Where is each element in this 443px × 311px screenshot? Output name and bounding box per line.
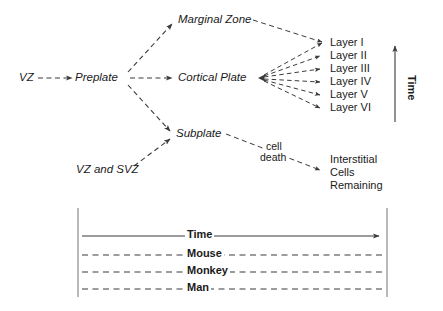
diagram-canvas: VZ Preplate Marginal Zone Cortical Plate… <box>0 0 443 311</box>
timeline-label-mouse: Mouse <box>185 248 224 260</box>
node-cortical-plate: Cortical Plate <box>178 71 246 83</box>
cortical-plate-inbound-arrowhead <box>258 74 266 82</box>
layer-label-4: Layer IV <box>330 76 371 88</box>
edge-vzsvz-to-subplate <box>134 139 170 166</box>
layer-label-1: Layer I <box>330 37 364 49</box>
edge-cortical-plate-to-layer-v <box>264 80 320 95</box>
layer-label-6: Layer VI <box>330 102 371 114</box>
edge-marginal-zone-to-layer-i <box>253 20 322 42</box>
timeline-time-label: Time <box>185 229 214 241</box>
layer-label-2: Layer II <box>330 50 367 62</box>
node-subplate: Subplate <box>176 127 221 139</box>
timeline-label-man: Man <box>185 282 211 294</box>
time-axis-vertical-label: Time <box>406 75 418 100</box>
timeline-label-monkey: Monkey <box>185 265 230 277</box>
node-vz-and-svz: VZ and SVZ <box>76 163 139 175</box>
node-marginal-zone: Marginal Zone <box>178 13 252 25</box>
layer-label-5: Layer V <box>330 89 368 101</box>
edge-preplate-to-subplate <box>128 85 170 131</box>
node-interstitial-line3: Remaining <box>330 179 383 193</box>
edge-preplate-to-marginal-zone <box>128 24 172 72</box>
edge-cortical-plate-to-layer-iv <box>264 79 320 82</box>
node-preplate: Preplate <box>75 71 118 83</box>
annotation-cell-death-line2: death <box>259 152 287 163</box>
node-interstitial-line1: Interstitial <box>330 153 377 167</box>
node-vz: VZ <box>19 71 34 83</box>
node-interstitial-line2: Cells <box>330 166 354 180</box>
edge-cortical-plate-to-layer-vi <box>264 81 320 108</box>
layer-label-3: Layer III <box>330 63 370 75</box>
